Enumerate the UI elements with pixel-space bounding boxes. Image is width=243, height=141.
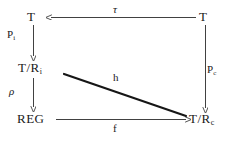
node-t-top-right: T: [199, 10, 207, 23]
edge-label-text: τ: [113, 3, 117, 15]
edge-label-text: f: [113, 122, 117, 134]
node-t-top-left: T: [27, 10, 35, 23]
commutative-diagram: T T T/Ri REG T/Rc τ Pi ρ Pc h f: [0, 0, 243, 141]
edge-label-text: ρ: [9, 85, 14, 97]
node-label: T/R: [18, 60, 40, 75]
node-t-mod-rc: T/Rc: [189, 112, 214, 127]
edge-label-text: h: [113, 71, 119, 83]
node-label: T: [27, 9, 35, 24]
node-subscript: c: [211, 118, 215, 127]
edge-label-tau: τ: [113, 4, 117, 15]
node-label: REG: [17, 111, 45, 126]
edge-label-pi: Pi: [7, 29, 15, 42]
edge-label-rho: ρ: [9, 86, 14, 97]
edge-label-pc: Pc: [207, 64, 216, 77]
node-label: T: [199, 9, 207, 24]
edge-h-line: [64, 74, 186, 116]
node-subscript: i: [40, 67, 42, 76]
edge-label-h: h: [113, 72, 119, 83]
edge-label-subscript: i: [13, 34, 15, 42]
node-label: T/R: [189, 111, 211, 126]
node-reg: REG: [17, 112, 45, 125]
edge-label-f: f: [113, 123, 117, 134]
node-t-mod-ri: T/Ri: [18, 61, 42, 76]
edge-label-subscript: c: [213, 69, 216, 77]
